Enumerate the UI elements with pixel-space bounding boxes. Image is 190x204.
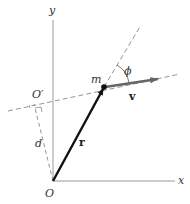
r-extension [104,25,141,87]
angle-label: ϕ [124,65,132,78]
mass-point [101,84,107,90]
x-axis-label: x [178,174,185,187]
distance-label: d [35,137,42,150]
velocity-vector-v [105,79,158,87]
tick-marker [29,105,30,108]
position-vector-r [53,89,103,181]
angular-momentum-diagram: y x O O′ m v r d ϕ [0,0,190,204]
origin-label: O [45,187,54,200]
position-label: r [79,136,85,149]
velocity-label: v [128,90,136,103]
y-axis-label: y [48,4,56,17]
mass-label: m [91,73,101,86]
origin-prime-label: O′ [32,88,44,101]
